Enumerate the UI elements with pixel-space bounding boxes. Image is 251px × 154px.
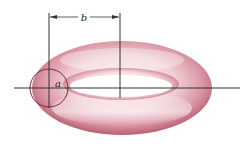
label-b: b [81,12,87,23]
label-a: a [55,78,61,89]
arrowhead-right-icon [112,15,119,19]
torus-hole [70,75,172,97]
arrowhead-left-icon [50,15,57,19]
torus-diagram: b a [0,0,251,154]
